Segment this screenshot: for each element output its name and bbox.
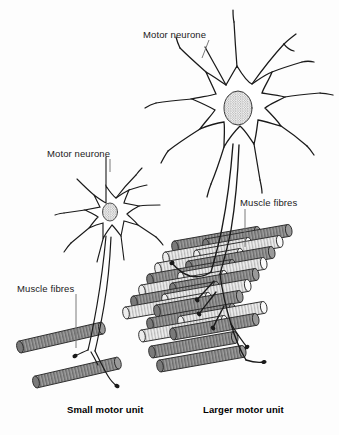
label-motor-neurone-large: Motor neurone (143, 29, 206, 40)
caption-small-motor-unit: Small motor unit (67, 404, 144, 415)
diagram-artwork (0, 0, 339, 435)
label-muscle-fibres-small: Muscle fibres (17, 283, 74, 294)
caption-large-motor-unit: Larger motor unit (203, 404, 284, 415)
motor-unit-diagram: Motor neurone Motor neurone Muscle fibre… (0, 0, 339, 435)
label-motor-neurone-small: Motor neurone (47, 148, 110, 159)
nucleus-small (103, 203, 118, 221)
nucleus-large (224, 91, 252, 125)
label-muscle-fibres-large: Muscle fibres (240, 197, 297, 208)
